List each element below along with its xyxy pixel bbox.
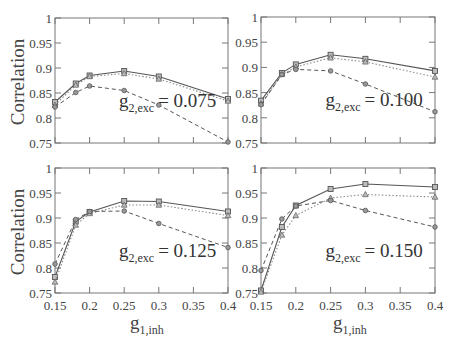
x-tick-label: 0.15 xyxy=(250,298,273,313)
circle-marker xyxy=(87,84,92,89)
circle-marker xyxy=(226,245,231,250)
y-tick-label: 0.8 xyxy=(242,261,258,276)
y-tick-label: 0.75 xyxy=(235,136,258,151)
square-marker xyxy=(433,185,438,190)
circle-marker xyxy=(433,109,438,114)
x-axis-label-left: g1,inh xyxy=(130,312,164,337)
x-tick-label: 0.3 xyxy=(357,298,373,313)
plot-frame xyxy=(261,17,435,143)
circle-marker xyxy=(259,102,264,107)
triangle-marker xyxy=(432,74,438,79)
panel-annotation: g2,exc= 0.075 xyxy=(119,90,216,115)
square-marker xyxy=(328,187,333,192)
circle-marker xyxy=(87,209,92,214)
y-tick-label: 1 xyxy=(252,161,259,176)
y-tick-label: 0.9 xyxy=(36,61,52,76)
circle-marker xyxy=(363,208,368,213)
x-tick-label: 0.35 xyxy=(389,298,412,313)
y-tick-label: 0.8 xyxy=(36,111,52,126)
circle-marker xyxy=(226,140,231,145)
circle-marker xyxy=(363,82,368,87)
y-tick-label: 0.8 xyxy=(36,261,52,276)
x-tick-label: 0.2 xyxy=(81,298,97,313)
x-tick-label: 0.25 xyxy=(113,298,136,313)
circle-marker xyxy=(328,198,333,203)
x-tick-label: 0.4 xyxy=(427,298,444,313)
y-tick-label: 0.9 xyxy=(36,211,52,226)
y-tick-label: 0.85 xyxy=(29,86,52,101)
circle-marker xyxy=(433,225,438,230)
circle-marker xyxy=(53,105,58,110)
triangle-marker xyxy=(363,192,369,197)
circle-marker xyxy=(73,90,78,95)
y-tick-label: 0.85 xyxy=(29,236,52,251)
plot-frame xyxy=(55,168,228,293)
circle-marker xyxy=(294,67,299,72)
triangle-marker xyxy=(432,194,438,199)
circle-marker xyxy=(259,268,264,273)
x-axis-label-right: g1,inh xyxy=(333,312,367,337)
y-tick-label: 1 xyxy=(252,10,259,25)
x-tick-label: 0.2 xyxy=(288,298,304,313)
panel-top-right: 0.750.80.850.90.951g2,exc= 0.100 xyxy=(235,10,438,151)
x-tick-label: 0.4 xyxy=(220,298,237,313)
y-tick-label: 0.75 xyxy=(29,136,52,151)
y-tick-label: 0.95 xyxy=(235,186,258,201)
y-tick-label: 0.95 xyxy=(29,186,52,201)
panel-bottom-left: 0.750.80.850.90.9510.150.20.250.30.350.4… xyxy=(29,161,236,313)
circle-marker xyxy=(280,217,285,222)
circle-marker xyxy=(280,72,285,77)
x-tick-label: 0.35 xyxy=(182,298,205,313)
x-tick-label: 0.25 xyxy=(319,298,342,313)
y-tick-label: 1 xyxy=(46,11,53,26)
y-tick-label: 0.95 xyxy=(235,35,258,50)
y-tick-label: 0.8 xyxy=(242,111,258,126)
y-tick-label: 0.85 xyxy=(235,236,258,251)
y-axis-label-top: Correlation xyxy=(7,38,28,125)
series-line-solid-square xyxy=(261,184,435,291)
panel-top-left: 0.750.80.850.90.951g2,exc= 0.075 xyxy=(29,11,231,151)
y-tick-label: 1 xyxy=(46,161,53,176)
circle-marker xyxy=(73,217,78,222)
square-marker xyxy=(363,182,368,187)
triangle-marker xyxy=(293,213,299,218)
circle-marker xyxy=(122,209,127,214)
figure: 0.750.80.850.90.951g2,exc= 0.075 0.750.8… xyxy=(0,0,451,341)
panel-annotation: g2,exc= 0.125 xyxy=(119,240,216,265)
circle-marker xyxy=(53,262,58,267)
panel-annotation: g2,exc= 0.150 xyxy=(325,240,422,265)
y-tick-label: 0.9 xyxy=(242,60,258,75)
circle-marker xyxy=(294,204,299,209)
y-tick-label: 0.85 xyxy=(235,86,258,101)
x-tick-label: 0.15 xyxy=(44,298,67,313)
y-axis-label-bottom: Correlation xyxy=(7,188,28,275)
panel-annotation: g2,exc= 0.100 xyxy=(325,89,422,114)
panel-bottom-right: 0.750.80.850.90.9510.150.20.250.30.350.4… xyxy=(235,161,443,313)
y-tick-label: 0.95 xyxy=(29,36,52,51)
y-tick-label: 0.9 xyxy=(242,211,258,226)
circle-marker xyxy=(157,221,162,226)
x-tick-label: 0.3 xyxy=(151,298,167,313)
square-marker xyxy=(279,225,284,230)
square-marker xyxy=(433,68,438,73)
circle-marker xyxy=(328,69,333,74)
